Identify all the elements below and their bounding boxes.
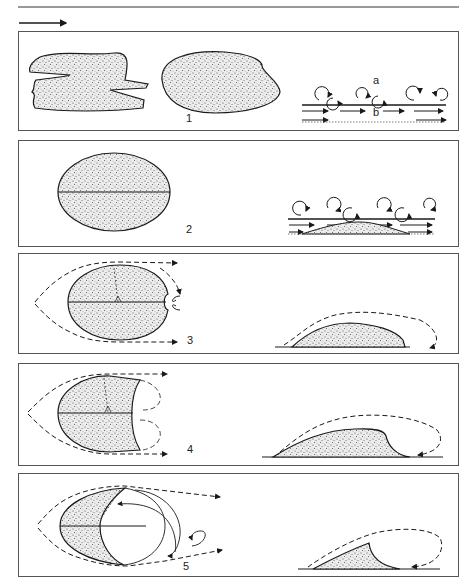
panel-2: 2 — [19, 141, 459, 247]
irregular-sand-body — [30, 53, 148, 111]
panel-3: 3 — [19, 254, 459, 354]
panel-label: 1 — [186, 112, 192, 124]
sand-deposit-diagram: 1 a b 2 — [0, 0, 473, 588]
vortices — [293, 197, 436, 221]
panel-5: 5 — [19, 474, 459, 577]
panel-label: 5 — [183, 560, 189, 572]
annotation-a: a — [373, 74, 380, 86]
oval-sand-body — [162, 52, 280, 113]
crescent-sand-body — [58, 376, 140, 452]
vortices — [315, 86, 448, 110]
sand-mound — [292, 323, 405, 347]
annotation-b: b — [373, 106, 379, 118]
panel-1: 1 a b — [19, 32, 459, 131]
sand-ripple — [302, 222, 410, 234]
panel-label: 4 — [187, 443, 193, 455]
sand-mound — [313, 543, 400, 569]
panel-label: 2 — [186, 223, 192, 235]
panel-label: 3 — [187, 334, 193, 346]
panel-4: 4 — [19, 364, 459, 466]
sand-mound — [273, 429, 410, 457]
